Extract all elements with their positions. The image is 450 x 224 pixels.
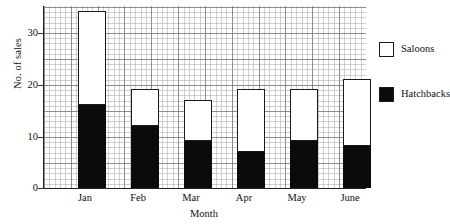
bar-apr-saloons[interactable] bbox=[237, 89, 265, 151]
x-axis-title: Month bbox=[43, 209, 365, 220]
y-tick-label-20: 20 bbox=[18, 80, 38, 91]
y-tick-label-10: 10 bbox=[18, 132, 38, 143]
bar-june[interactable] bbox=[343, 6, 371, 188]
bar-may-saloons[interactable] bbox=[290, 89, 318, 141]
bar-feb[interactable] bbox=[131, 6, 159, 188]
bar-apr[interactable] bbox=[237, 6, 265, 188]
legend-label-saloons: Saloons bbox=[401, 44, 434, 55]
bar-jan-saloons[interactable] bbox=[78, 11, 106, 105]
plot-area bbox=[43, 6, 366, 189]
legend-swatch-hatchbacks-icon bbox=[379, 87, 394, 102]
x-tick-label-jan: Jan bbox=[57, 193, 113, 204]
x-tick-label-june: June bbox=[322, 193, 378, 204]
bar-may[interactable] bbox=[290, 6, 318, 188]
y-tick-label-30: 30 bbox=[18, 28, 38, 39]
legend-label-hatchbacks: Hatchbacks bbox=[401, 89, 450, 100]
y-tick-label-0: 0 bbox=[18, 183, 38, 194]
bar-mar-saloons[interactable] bbox=[184, 100, 212, 142]
x-tick-label-apr: Apr bbox=[216, 193, 272, 204]
bar-feb-hatchbacks[interactable] bbox=[131, 126, 159, 188]
bar-jan[interactable] bbox=[78, 6, 106, 188]
x-tick-label-feb: Feb bbox=[110, 193, 166, 204]
legend-swatch-saloons-icon bbox=[379, 42, 394, 57]
x-tick-label-may: May bbox=[269, 193, 325, 204]
bar-mar[interactable] bbox=[184, 6, 212, 188]
y-axis-ticks: 30 20 10 0 bbox=[14, 0, 38, 224]
bar-jan-hatchbacks[interactable] bbox=[78, 105, 106, 188]
bar-feb-saloons[interactable] bbox=[131, 89, 159, 125]
bar-june-saloons[interactable] bbox=[343, 79, 371, 147]
bar-may-hatchbacks[interactable] bbox=[290, 141, 318, 188]
bar-mar-hatchbacks[interactable] bbox=[184, 141, 212, 188]
legend-item-hatchbacks[interactable]: Hatchbacks bbox=[379, 87, 450, 102]
bar-apr-hatchbacks[interactable] bbox=[237, 152, 265, 188]
bar-june-hatchbacks[interactable] bbox=[343, 146, 371, 188]
legend-item-saloons[interactable]: Saloons bbox=[379, 42, 434, 57]
x-tick-label-mar: Mar bbox=[163, 193, 219, 204]
